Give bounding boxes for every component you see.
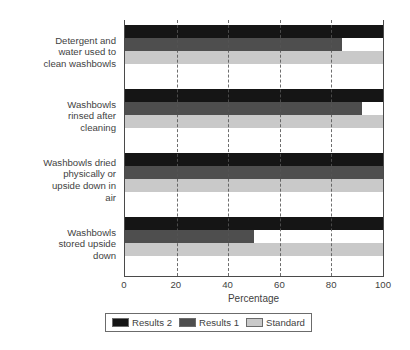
bar-standard — [125, 51, 383, 64]
category-label-line: Detergent and — [43, 35, 116, 47]
bar-standard — [125, 115, 383, 128]
bar-fill — [125, 179, 383, 192]
bar-results-2 — [125, 25, 383, 38]
category-label-line: water used to — [43, 46, 116, 58]
x-tick-label: 80 — [326, 279, 337, 290]
bar-fill — [125, 217, 383, 230]
category-label-line: air — [43, 192, 116, 204]
bar-fill — [125, 89, 383, 102]
bar-group — [125, 148, 383, 212]
bar-group — [125, 20, 383, 84]
category-axis-labels: Detergent andwater used toclean washbowl… — [8, 20, 120, 276]
bar-fill — [125, 51, 383, 64]
category-label-line: physically or — [43, 168, 116, 180]
category-label-line: upside down in — [43, 180, 116, 192]
category-label: Washbowlsstored upsidedown — [8, 212, 120, 276]
group-gap — [125, 192, 383, 212]
bar-chart-figure: Detergent andwater used toclean washbowl… — [0, 0, 410, 350]
x-tick-label: 60 — [274, 279, 285, 290]
group-gap — [125, 256, 383, 276]
legend-label: Standard — [266, 317, 305, 328]
bar-group — [125, 84, 383, 148]
category-label-line: cleaning — [67, 122, 116, 134]
x-tick-label: 20 — [170, 279, 181, 290]
bar-standard — [125, 243, 383, 256]
category-label-line: down — [58, 250, 116, 262]
legend-entry: Results 2 — [112, 317, 172, 328]
plot-area — [124, 20, 384, 277]
bar-fill — [125, 243, 383, 256]
category-label-line: rinsed after — [67, 110, 116, 122]
group-gap — [125, 64, 383, 84]
bar-fill — [125, 166, 383, 179]
bar-fill — [125, 38, 342, 51]
category-label: Detergent andwater used toclean washbowl… — [8, 20, 120, 84]
category-label: Washbowlsrinsed aftercleaning — [8, 84, 120, 148]
bar-fill — [125, 230, 254, 243]
legend-label: Results 1 — [199, 317, 239, 328]
x-axis-tick-labels: 020406080100 — [124, 279, 383, 293]
bar-results-1 — [125, 102, 383, 115]
bar-results-2 — [125, 89, 383, 102]
bar-standard — [125, 179, 383, 192]
bar-results-1 — [125, 230, 383, 243]
category-label-line: stored upside — [58, 238, 116, 250]
bar-results-1 — [125, 38, 383, 51]
category-label: Washbowls driedphysically orupside down … — [8, 148, 120, 212]
category-label-line: Washbowls — [58, 227, 116, 239]
bar-fill — [125, 102, 362, 115]
legend-entry: Results 1 — [179, 317, 239, 328]
x-tick-label: 0 — [121, 279, 126, 290]
legend-swatch-icon — [179, 318, 196, 327]
bar-results-2 — [125, 217, 383, 230]
legend-swatch-icon — [112, 318, 129, 327]
group-gap — [125, 128, 383, 148]
category-label-line: clean washbowls — [43, 58, 116, 70]
legend-entry: Standard — [246, 317, 305, 328]
category-label-line: Washbowls dried — [43, 157, 116, 169]
bar-results-2 — [125, 153, 383, 166]
bar-fill — [125, 153, 383, 166]
bar-fill — [125, 25, 383, 38]
bar-fill — [125, 115, 383, 128]
bar-results-1 — [125, 166, 383, 179]
bar-groups — [125, 20, 383, 276]
x-tick-label: 100 — [375, 279, 391, 290]
x-axis-title: Percentage — [124, 293, 383, 304]
legend-swatch-icon — [246, 318, 263, 327]
chart-legend: Results 2Results 1Standard — [105, 313, 312, 332]
category-label-line: Washbowls — [67, 99, 116, 111]
x-tick-label: 40 — [222, 279, 233, 290]
bar-group — [125, 212, 383, 276]
legend-label: Results 2 — [132, 317, 172, 328]
